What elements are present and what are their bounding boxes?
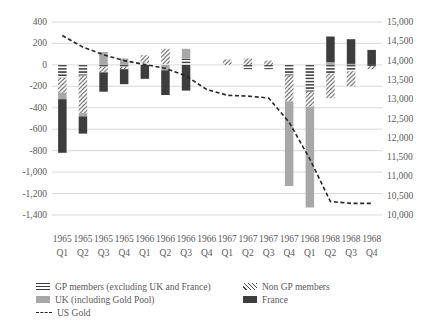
x-axis-year-label: 1965 [53, 234, 72, 244]
bar-segment [306, 92, 315, 107]
left-axis-tick-label: -1,200 [22, 189, 47, 199]
bar-segment [99, 72, 108, 91]
x-axis-quarter-label: Q2 [160, 248, 172, 258]
bar-segment [141, 55, 150, 63]
bar-segment [326, 74, 335, 99]
bar-segment [306, 65, 315, 92]
legend-column-2: Non GP members France [243, 280, 330, 306]
chart-plot-area: 4002000-200-400-600-800-1,000-1,200-1,40… [0, 0, 439, 268]
x-axis-year-label: 1966 [156, 234, 175, 244]
bar-segment [58, 99, 67, 153]
x-axis-year-label: 1967 [259, 234, 278, 244]
bar-segment [347, 71, 356, 86]
right-axis-tick-label: 12,000 [387, 133, 413, 143]
x-axis-quarter-label: Q1 [139, 248, 151, 258]
bar-segment [223, 60, 232, 65]
right-axis-tick-labels: 15,00014,50014,00013,50013,00012,50012,0… [387, 17, 413, 220]
left-axis-tick-label: 400 [33, 17, 48, 27]
x-axis-quarter-label: Q2 [325, 248, 337, 258]
right-axis-tick-label: 11,000 [387, 171, 413, 181]
x-axis-quarter-label: Q1 [304, 248, 316, 258]
x-axis-year-label: 1966 [135, 234, 154, 244]
bar-segment [367, 66, 376, 69]
x-axis-tick-labels: 1965Q11965Q21965Q31965Q41966Q11966Q21966… [53, 234, 382, 258]
uk-swatch-icon [36, 296, 50, 303]
x-axis-year-label: 1966 [197, 234, 216, 244]
france-swatch-icon [243, 296, 257, 303]
x-axis-year-label: 1965 [73, 234, 92, 244]
x-axis-year-label: 1967 [238, 234, 257, 244]
x-axis-quarter-label: Q1 [56, 248, 68, 258]
left-axis-tick-label: -1,400 [22, 210, 47, 220]
bar-segment [326, 37, 335, 63]
bar-segment [161, 70, 170, 95]
left-axis-tick-label: -1,000 [22, 167, 47, 177]
bar-segment [120, 69, 128, 84]
legend-item-us-gold: US Gold [36, 306, 211, 319]
legend-label-us-gold: US Gold [57, 308, 91, 318]
left-axis-tick-label: 200 [33, 38, 48, 48]
legend-item-france: France [243, 293, 330, 306]
bar-segment [182, 59, 191, 65]
x-axis-quarter-label: Q3 [345, 248, 357, 258]
bar-segment [347, 65, 356, 71]
left-axis-tick-labels: 4002000-200-400-600-800-1,000-1,200-1,40… [22, 17, 47, 220]
non-gp-members-swatch-icon [243, 283, 257, 290]
bar-segment [285, 101, 294, 186]
bar-segment [347, 39, 356, 64]
bar-segment [120, 67, 128, 69]
bar-segment [367, 50, 376, 65]
x-axis-year-label: 1968 [300, 234, 319, 244]
legend-item-non-gp-members: Non GP members [243, 280, 330, 293]
x-axis-year-label: 1968 [362, 234, 381, 244]
x-axis-quarter-label: Q2 [77, 248, 89, 258]
legend-item-uk: UK (including Gold Pool) [36, 293, 211, 306]
right-axis-tick-label: 10,500 [387, 191, 413, 201]
bar-segment [120, 59, 128, 65]
x-axis-quarter-label: Q4 [118, 248, 130, 258]
right-axis-tick-label: 13,500 [387, 75, 413, 85]
right-axis-tick-label: 13,000 [387, 94, 413, 104]
x-axis-year-label: 1967 [218, 234, 237, 244]
legend-label-uk: UK (including Gold Pool) [55, 295, 154, 305]
x-axis-quarter-label: Q3 [98, 248, 110, 258]
bar-segment [264, 61, 273, 65]
bar-segment [367, 65, 376, 66]
gold-pool-chart-figure: 4002000-200-400-600-800-1,000-1,200-1,40… [0, 0, 439, 327]
bar-segment [161, 64, 170, 65]
us-gold-dashed-line-icon [36, 312, 52, 313]
x-axis-year-label: 1968 [321, 234, 340, 244]
legend-label-gp-members: GP members (excluding UK and France) [55, 282, 211, 292]
legend-label-non-gp-members: Non GP members [262, 282, 330, 292]
bar-segment [326, 62, 335, 65]
left-axis-tick-label: -800 [30, 146, 48, 156]
bar-segment [285, 76, 294, 102]
bar-segment [120, 65, 128, 67]
bar-segment [347, 64, 356, 65]
bar-segment [264, 65, 273, 69]
bar-segment [244, 59, 253, 65]
bar-segment [58, 78, 67, 93]
x-axis-year-label: 1965 [94, 234, 113, 244]
x-axis-quarter-label: Q3 [180, 248, 192, 258]
right-axis-tick-label: 14,000 [387, 56, 413, 66]
x-axis-quarter-label: Q4 [201, 248, 213, 258]
bar-segment [79, 116, 88, 133]
bar-segment [79, 65, 88, 76]
bar-segment [58, 93, 67, 99]
left-axis-tick-label: -600 [30, 124, 48, 134]
x-axis-quarter-label: Q4 [366, 248, 378, 258]
bar-segment [161, 49, 170, 64]
legend-item-gp-members: GP members (excluding UK and France) [36, 280, 211, 293]
x-axis-quarter-label: Q4 [283, 248, 295, 258]
bar-segment [182, 49, 191, 59]
bar-segment [326, 65, 335, 74]
right-axis-tick-label: 15,000 [387, 17, 413, 27]
x-axis-year-label: 1967 [280, 234, 299, 244]
left-axis-tick-label: 0 [42, 60, 47, 70]
bar-segment [141, 65, 150, 79]
bar-segment [79, 76, 88, 114]
x-axis-quarter-label: Q2 [242, 248, 254, 258]
right-axis-tick-label: 11,500 [387, 152, 413, 162]
bar-segment [58, 65, 67, 78]
